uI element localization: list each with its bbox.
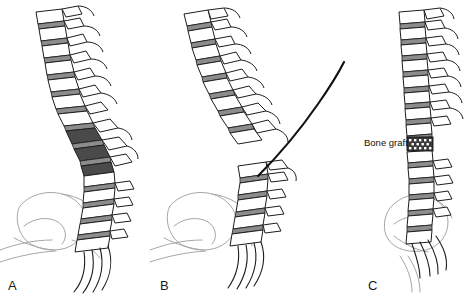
spinal-osteotomy-figure: A: [0, 0, 465, 297]
panel-letter-b: B: [160, 278, 169, 293]
panel-letter-a: A: [8, 278, 17, 293]
bone-graft-label: Bone graft: [364, 137, 408, 148]
bone-graft-block: [407, 137, 433, 151]
panel-letter-c: C: [368, 278, 377, 293]
